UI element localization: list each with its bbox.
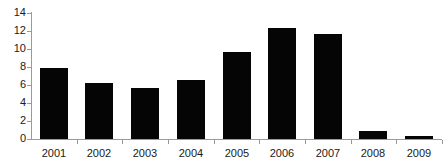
y-axis-tick [27,121,32,122]
x-axis-tick [259,140,260,144]
bar-2001 [40,68,68,139]
x-axis-tick-label-2004: 2004 [168,147,214,159]
bar-2008 [359,131,387,139]
y-axis-tick-label: 12 [2,25,26,36]
x-axis-tick-label-2006: 2006 [259,147,305,159]
bar-2003 [131,88,159,139]
x-axis-tick [214,140,215,144]
y-axis-tick [27,67,32,68]
x-axis-tick-label-2008: 2008 [350,147,396,159]
x-axis-tick-label-2005: 2005 [214,147,260,159]
x-axis-tick-label-2003: 2003 [122,147,168,159]
bar-chart: 02468101214 2001200220032004200520062007… [0,0,446,168]
x-axis-tick [442,140,443,144]
x-axis-tick [396,140,397,144]
bar-2004 [177,80,205,139]
x-axis-tick [305,140,306,144]
y-axis-tick-label: 2 [2,115,26,126]
x-axis-tick-label-2007: 2007 [305,147,351,159]
bar-2007 [314,34,342,139]
y-axis-tick-label: 10 [2,43,26,54]
x-axis-tick-label-2002: 2002 [76,147,122,159]
bar-2006 [268,28,296,139]
y-axis-tick [27,31,32,32]
x-axis-tick-label-2009: 2009 [396,147,442,159]
y-axis-tick [27,49,32,50]
y-axis-tick [27,139,32,140]
y-axis-tick [27,13,32,14]
x-axis-tick [351,140,352,144]
x-axis-tick-label-2001: 2001 [31,147,77,159]
y-axis-tick-label: 14 [2,7,26,18]
y-axis-tick [27,103,32,104]
plot-area: 02468101214 2001200220032004200520062007… [0,0,446,168]
x-axis-line [31,139,442,140]
y-axis-tick [27,85,32,86]
y-axis-tick-label: 0 [2,133,26,144]
y-axis-tick-label: 6 [2,79,26,90]
bar-2002 [85,83,113,139]
y-axis-tick-label: 8 [2,61,26,72]
bar-2009 [405,136,433,139]
x-axis-tick [77,140,78,144]
x-axis-tick [168,140,169,144]
y-axis-tick-label: 4 [2,97,26,108]
bar-2005 [223,52,251,139]
x-axis-tick [122,140,123,144]
